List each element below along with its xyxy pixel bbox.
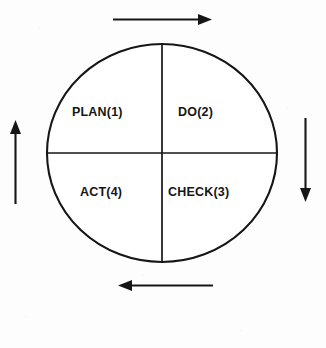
quadrant-label-do: DO(2) [178, 106, 213, 119]
arrow-top-head [198, 14, 212, 25]
arrow-right-down [300, 118, 311, 202]
arrow-left-up [10, 120, 21, 204]
arrow-bottom-head [118, 280, 132, 291]
pdca-diagram-page: PLAN(1) DO(2) CHECK(3) ACT(4) [0, 0, 326, 348]
quadrant-label-plan: PLAN(1) [72, 106, 123, 119]
pdca-cycle-diagram [0, 0, 326, 348]
quadrant-label-check: CHECK(3) [168, 186, 229, 199]
arrow-right-head [300, 188, 311, 202]
arrow-top-right [113, 14, 212, 25]
quadrant-label-act: ACT(4) [80, 186, 122, 199]
arrow-left-head [10, 120, 21, 134]
arrow-bottom-left [118, 280, 213, 291]
